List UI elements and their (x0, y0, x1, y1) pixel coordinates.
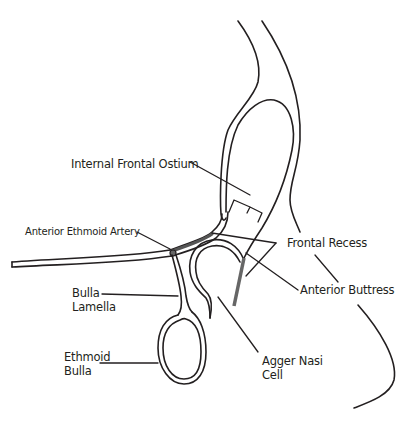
leader-frontal-recess-upper (212, 233, 276, 243)
label-bulla-lamella: Bulla Lamella (72, 286, 116, 314)
label-ethmoid-bulla-line1: Ethmoid (64, 350, 110, 364)
ostium-bracket (229, 200, 262, 222)
label-ethmoid-bulla: Ethmoid Bulla (64, 350, 110, 378)
label-anterior-buttress: Anterior Buttress (300, 283, 394, 297)
agger-nasi-inner (196, 246, 240, 318)
label-anterior-ethmoid-artery: Anterior Ethmoid Artery (25, 225, 140, 239)
label-bulla-lamella-line1: Bulla (72, 286, 116, 300)
bulla-lamella-left (172, 255, 182, 315)
frontal-sinus-anterior-wall (262, 21, 300, 232)
leader-anterior-ethmoid-artery (137, 232, 170, 249)
anterior-buttress-bar (234, 258, 244, 306)
frontal-recess-diagram: Internal Frontal Ostium Anterior Ethmoid… (0, 0, 415, 422)
frontal-sinus-inner-loop (226, 100, 293, 258)
anterior-ethmoid-artery-dot (170, 250, 176, 256)
leader-frontal-recess-to-buttress (315, 255, 338, 282)
leader-anterior-buttress (246, 253, 298, 290)
label-agger-nasi-line2: Cell (262, 368, 323, 382)
label-internal-frontal-ostium: Internal Frontal Ostium (71, 157, 199, 171)
roof-upper-line (170, 214, 222, 250)
ethmoid-bulla-outer (158, 312, 206, 384)
ethmoid-bulla-inner (163, 319, 201, 379)
leader-agger-nasi (218, 297, 258, 352)
label-frontal-recess: Frontal Recess (287, 236, 367, 250)
skull-base-upper (12, 250, 170, 262)
diagram-drawing (0, 0, 415, 422)
label-bulla-lamella-line2: Lamella (72, 300, 116, 314)
lateral-wall-curve (354, 305, 395, 408)
label-ethmoid-bulla-line2: Bulla (64, 364, 110, 378)
label-agger-nasi-line1: Agger Nasi (262, 354, 323, 368)
label-agger-nasi-cell: Agger Nasi Cell (262, 354, 323, 382)
